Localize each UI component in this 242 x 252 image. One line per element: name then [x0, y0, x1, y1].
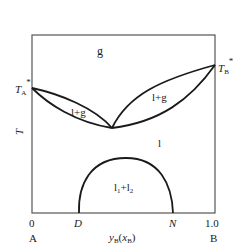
x-tick-0: 0	[29, 217, 35, 229]
tb-star-label: TB*	[218, 56, 234, 76]
component-b-label: B	[210, 232, 217, 244]
component-a-label: A	[29, 232, 37, 244]
x-tick-1: 1.0	[205, 217, 219, 229]
point-n-label: N	[168, 217, 177, 229]
x-axis-label: yB(xB)	[108, 231, 136, 245]
region-two-liquids-label: l1+l2	[114, 181, 134, 195]
region-lg-left-label: l+g	[71, 106, 86, 118]
region-gas-label: g	[97, 44, 103, 58]
phase-diagram: g l+g l+g l l1+l2 TA* TB* T 0 1.0 D N yB…	[0, 0, 242, 252]
region-lg-right-label: l+g	[152, 91, 167, 103]
y-axis-label: T	[13, 128, 25, 135]
point-d-label: D	[73, 217, 82, 229]
region-liquid-label: l	[158, 137, 161, 149]
ta-star-label: TA*	[15, 77, 31, 97]
